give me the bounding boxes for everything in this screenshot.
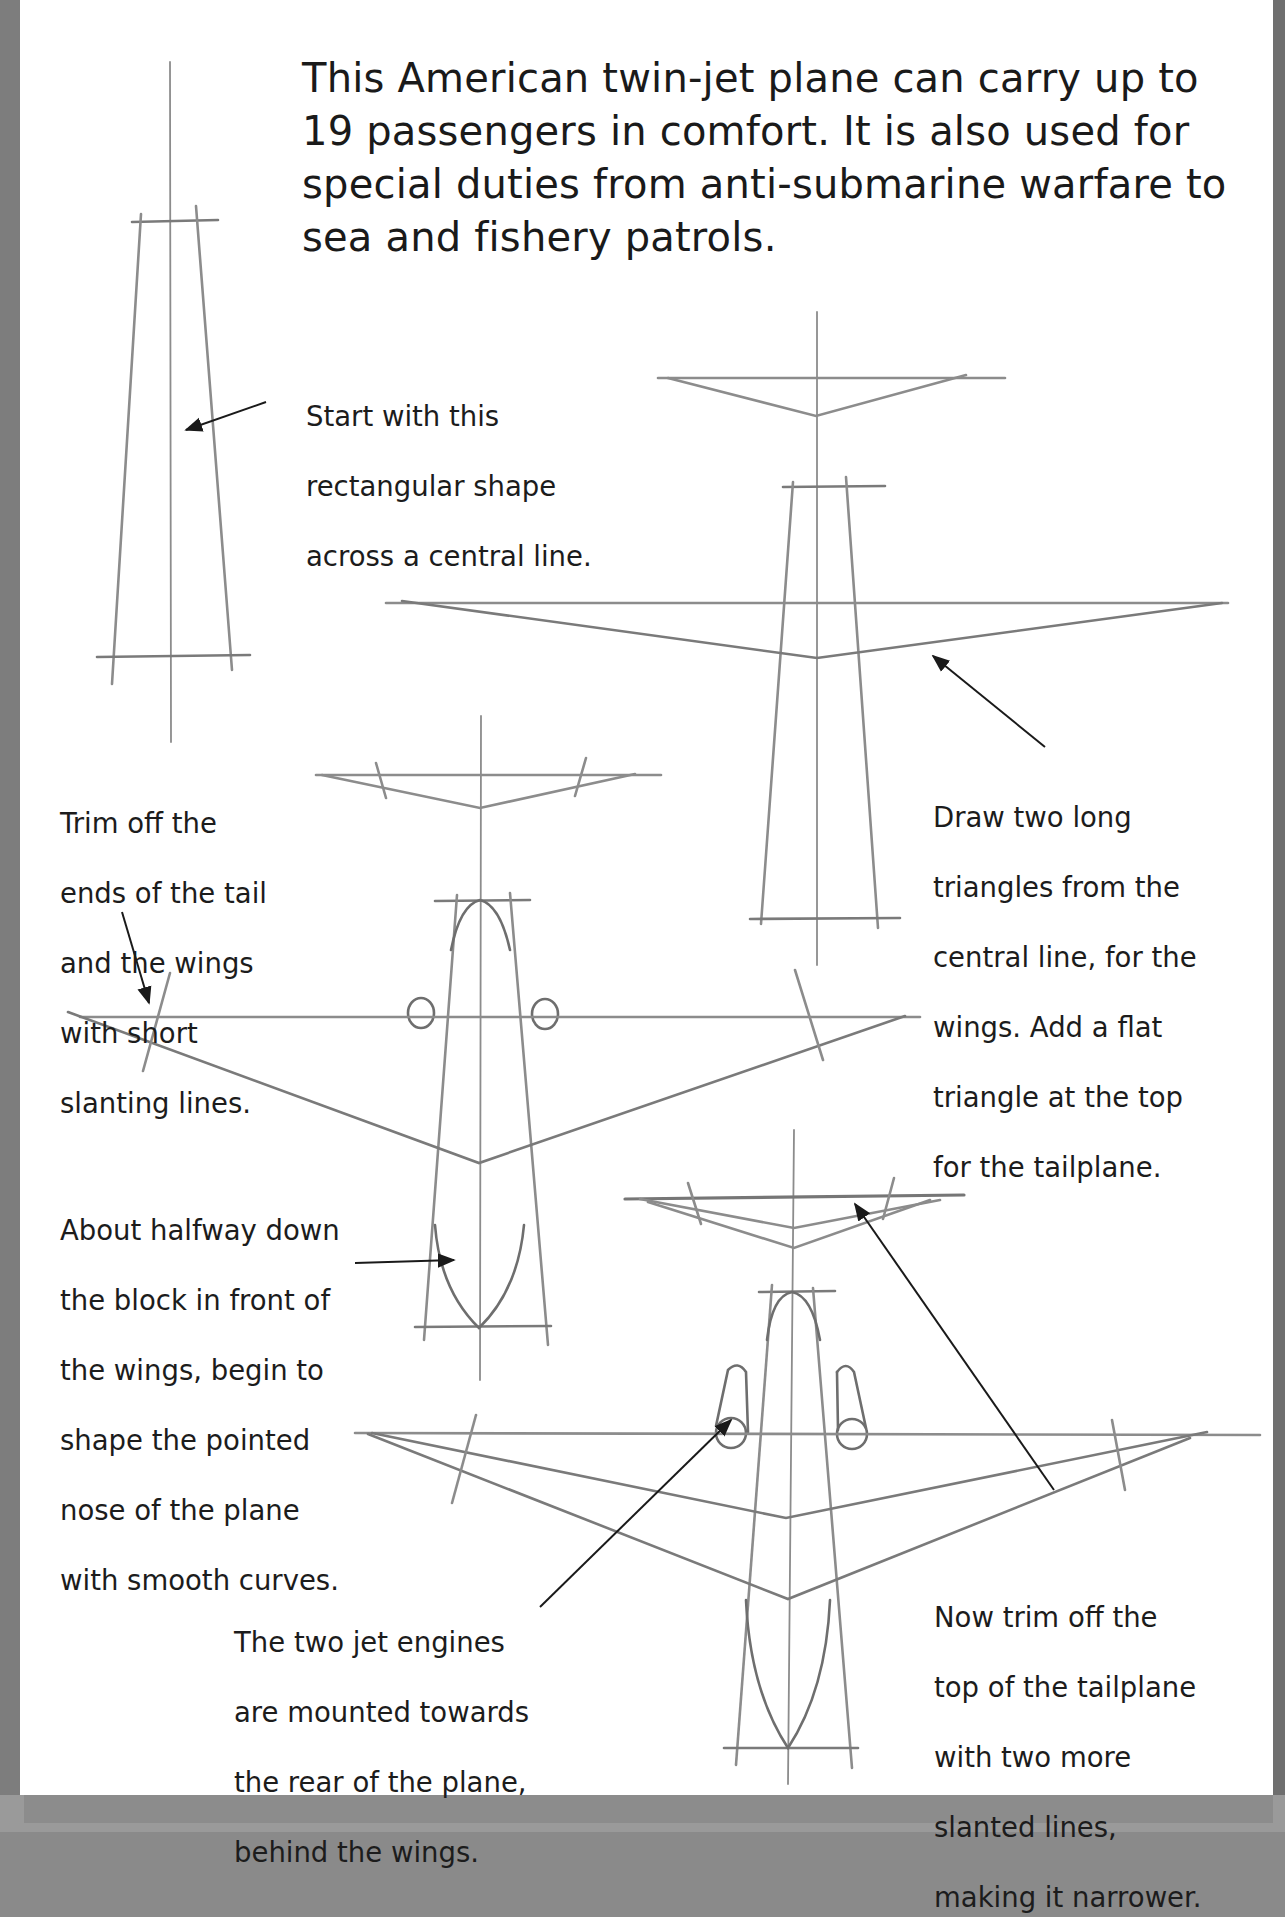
caption-line: nose of the plane	[60, 1493, 340, 1528]
caption-line: with short	[60, 1016, 267, 1051]
caption-line: central line, for the	[933, 940, 1197, 975]
caption-line: rectangular shape	[306, 469, 592, 504]
caption-line: triangles from the	[933, 870, 1197, 905]
caption-line: Trim off the	[60, 806, 267, 841]
caption-line: making it narrower.	[934, 1880, 1202, 1915]
caption-line: The two jet engines	[234, 1625, 529, 1660]
step-2-caption: Draw two long triangles from the central…	[933, 765, 1197, 1220]
caption-line: Start with this	[306, 399, 592, 434]
caption-line: are mounted towards	[234, 1695, 529, 1730]
caption-line: top of the tailplane	[934, 1670, 1202, 1705]
intro-line: sea and fishery patrols.	[302, 211, 1232, 264]
caption-line: Now trim off the	[934, 1600, 1202, 1635]
caption-line: for the tailplane.	[933, 1150, 1197, 1185]
caption-line: wings. Add a flat	[933, 1010, 1197, 1045]
caption-line: across a central line.	[306, 539, 592, 574]
intro-line: 19 passengers in comfort. It is also use…	[302, 105, 1232, 158]
step-4-caption-tailplane: Now trim off the top of the tailplane wi…	[934, 1565, 1202, 1917]
caption-line: ends of the tail	[60, 876, 267, 911]
caption-line: slanted lines,	[934, 1810, 1202, 1845]
caption-line: with two more	[934, 1740, 1202, 1775]
caption-line: About halfway down	[60, 1213, 340, 1248]
step-1-caption: Start with this rectangular shape across…	[306, 364, 592, 609]
step-4-caption-engines: The two jet engines are mounted towards …	[234, 1590, 529, 1905]
intro-paragraph: This American twin-jet plane can carry u…	[302, 52, 1232, 264]
caption-line: the block in front of	[60, 1283, 340, 1318]
step-3-caption-trim: Trim off the ends of the tail and the wi…	[60, 771, 267, 1156]
page-border-right	[1273, 0, 1285, 1832]
page-border-left	[0, 0, 20, 1832]
intro-line: This American twin-jet plane can carry u…	[302, 52, 1232, 105]
intro-line: special duties from anti-submarine warfa…	[302, 158, 1232, 211]
caption-line: shape the pointed	[60, 1423, 340, 1458]
caption-line: the wings, begin to	[60, 1353, 340, 1388]
caption-line: behind the wings.	[234, 1835, 529, 1870]
caption-line: Draw two long	[933, 800, 1197, 835]
caption-line: the rear of the plane,	[234, 1765, 529, 1800]
step-3-caption-nose: About halfway down the block in front of…	[60, 1178, 340, 1633]
caption-line: slanting lines.	[60, 1086, 267, 1121]
caption-line: triangle at the top	[933, 1080, 1197, 1115]
caption-line: and the wings	[60, 946, 267, 981]
